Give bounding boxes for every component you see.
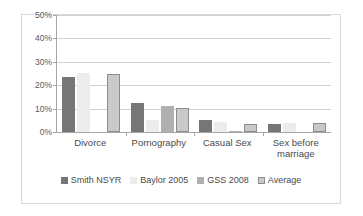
legend-label: Smith NSYR: [71, 176, 122, 185]
bar-group: [57, 15, 126, 132]
plot-wrapper: 0%10%20%30%40%50%: [22, 15, 340, 150]
bar-slot: [283, 15, 296, 132]
legend-swatch-icon: [197, 177, 204, 184]
bar-slot: [298, 15, 311, 132]
y-axis-tick-label: 20%: [35, 81, 52, 90]
bar[interactable]: [77, 73, 90, 132]
bar-group: [126, 15, 195, 132]
bar[interactable]: [107, 74, 120, 132]
chart-frame: 0%10%20%30%40%50% DivorcePornographyCasu…: [21, 14, 341, 204]
bar-slot: [229, 15, 242, 132]
bar-slot: [146, 15, 159, 132]
x-axis-category-label: Pornography: [125, 134, 194, 168]
x-axis-category-label: Sex before marriage: [262, 134, 331, 168]
bar[interactable]: [214, 122, 227, 132]
legend-swatch-icon: [258, 177, 265, 184]
bar-slot: [313, 15, 326, 132]
legend-item[interactable]: GSS 2008: [197, 176, 249, 185]
legend-label: Average: [268, 176, 301, 185]
bar[interactable]: [131, 103, 144, 132]
chart-legend: Smith NSYRBaylor 2005GSS 2008Average: [22, 170, 340, 190]
y-axis-tick-mark: [53, 132, 57, 133]
legend-swatch-icon: [61, 177, 68, 184]
bar-slot: [77, 15, 90, 132]
y-axis-tick-label: 40%: [35, 34, 52, 43]
y-axis-tick-label: 30%: [35, 58, 52, 67]
legend-swatch-icon: [130, 177, 137, 184]
legend-label: Baylor 2005: [140, 176, 188, 185]
bar-slot: [199, 15, 212, 132]
bar-slot: [244, 15, 257, 132]
legend-item[interactable]: Baylor 2005: [130, 176, 188, 185]
bar-slot: [62, 15, 75, 132]
bar[interactable]: [199, 120, 212, 132]
legend-label: GSS 2008: [207, 176, 249, 185]
bar[interactable]: [313, 123, 326, 132]
bar-groups: [57, 15, 331, 132]
bar-slot: [161, 15, 174, 132]
bar-slot: [107, 15, 120, 132]
bar[interactable]: [62, 77, 75, 132]
bar[interactable]: [268, 124, 281, 132]
bar-slot: [214, 15, 227, 132]
legend-item[interactable]: Smith NSYR: [61, 176, 122, 185]
x-axis-category-labels: DivorcePornographyCasual SexSex before m…: [56, 134, 330, 168]
bar-group: [194, 15, 263, 132]
bar-slot: [131, 15, 144, 132]
x-axis-category-label: Divorce: [56, 134, 125, 168]
bar-group: [263, 15, 332, 132]
bar-slot: [176, 15, 189, 132]
bar[interactable]: [176, 108, 189, 132]
plot-area: [56, 15, 331, 133]
y-axis-tick-label: 10%: [35, 104, 52, 113]
bar[interactable]: [146, 120, 159, 132]
bar[interactable]: [161, 106, 174, 132]
bar-slot: [92, 15, 105, 132]
bar[interactable]: [244, 124, 257, 132]
y-axis-labels: 0%10%20%30%40%50%: [22, 15, 55, 132]
legend-item[interactable]: Average: [258, 176, 301, 185]
y-axis-tick-label: 0%: [40, 128, 52, 137]
bar[interactable]: [229, 131, 242, 132]
x-axis-category-label: Casual Sex: [193, 134, 262, 168]
cut-off-title: [0, 0, 363, 13]
y-axis-tick-label: 50%: [35, 11, 52, 20]
bar-slot: [268, 15, 281, 132]
bar[interactable]: [283, 123, 296, 132]
